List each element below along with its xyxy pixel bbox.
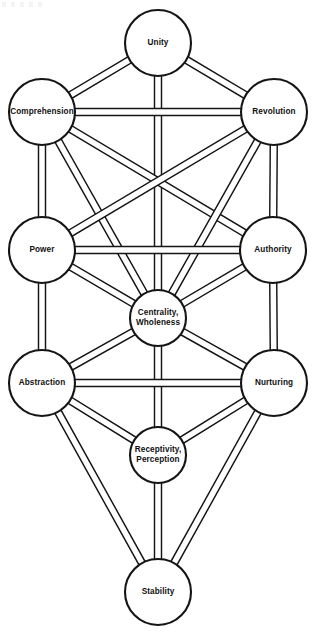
node-receptivity[interactable]: Receptivity,Perception bbox=[130, 427, 186, 483]
node-authority[interactable]: Authority bbox=[240, 217, 306, 283]
edge-receptivity-to-stability bbox=[155, 482, 162, 560]
node-revolution[interactable]: Revolution bbox=[241, 79, 307, 145]
edge-revolution-to-authority bbox=[270, 144, 278, 218]
node-abstraction[interactable]: Abstraction bbox=[9, 350, 75, 416]
node-label-abstraction: Abstraction bbox=[19, 378, 66, 387]
edge-abstraction-to-nurturing bbox=[74, 380, 242, 387]
node-power[interactable]: Power bbox=[9, 217, 75, 283]
edge-unity-to-revolution bbox=[184, 56, 249, 98]
edge-unity-to-comprehension bbox=[68, 56, 133, 98]
tree-of-life-diagram: UnityComprehensionRevolutionPowerAuthori… bbox=[0, 0, 317, 633]
edge-nurturing-to-stability bbox=[170, 409, 261, 565]
node-unity[interactable]: Unity bbox=[125, 10, 191, 76]
node-label-unity: Unity bbox=[148, 38, 169, 47]
edge-authority-to-nurturing bbox=[270, 282, 278, 351]
node-centrality[interactable]: Centrality,Wholeness bbox=[130, 290, 186, 346]
node-label-centrality: Centrality, bbox=[138, 308, 179, 317]
edge-power-to-authority bbox=[74, 247, 241, 254]
node-label-stability: Stability bbox=[142, 587, 175, 596]
edge-comprehension-to-power bbox=[39, 144, 46, 218]
node-label-power: Power bbox=[29, 245, 55, 254]
edge-comprehension-to-revolution bbox=[74, 109, 242, 116]
edge-centrality-to-abstraction bbox=[68, 328, 136, 370]
node-label-nurturing: Nurturing bbox=[255, 378, 293, 387]
node-comprehension[interactable]: Comprehension bbox=[9, 79, 75, 145]
edge-abstraction-to-receptivity bbox=[67, 397, 137, 444]
node-stability[interactable]: Stability bbox=[125, 559, 191, 625]
node-label-revolution: Revolution bbox=[252, 107, 295, 116]
edge-nurturing-to-receptivity bbox=[179, 397, 249, 444]
node-label-centrality: Wholeness bbox=[136, 318, 180, 327]
diagram-canvas: UnityComprehensionRevolutionPowerAuthori… bbox=[0, 0, 317, 633]
edge-abstraction-to-stability bbox=[54, 409, 145, 565]
edge-power-to-abstraction bbox=[39, 282, 46, 351]
node-label-receptivity: Receptivity, bbox=[135, 445, 182, 454]
node-label-receptivity: Perception bbox=[136, 455, 179, 464]
node-label-authority: Authority bbox=[254, 245, 292, 254]
edge-centrality-to-nurturing bbox=[180, 328, 248, 370]
node-label-comprehension: Comprehension bbox=[10, 107, 74, 116]
node-nurturing[interactable]: Nurturing bbox=[241, 350, 307, 416]
